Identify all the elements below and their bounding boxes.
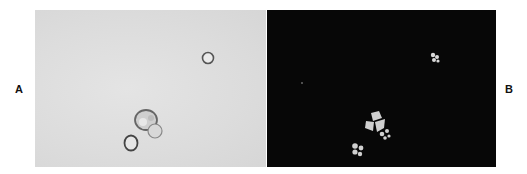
- brightfield-panel: [35, 10, 266, 167]
- fluorescence-panel: [267, 10, 496, 167]
- fluorescent-cells: [267, 10, 496, 167]
- panel-label-a: A: [15, 83, 23, 95]
- brightfield-cells: [35, 10, 266, 167]
- panel-label-b: B: [505, 83, 513, 95]
